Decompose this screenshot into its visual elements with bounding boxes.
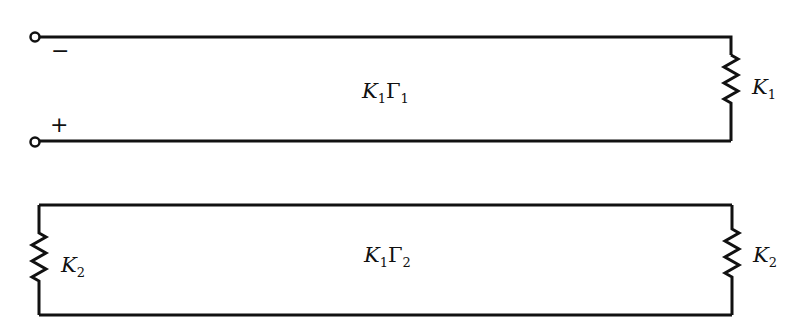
terminal-minus-icon	[31, 33, 40, 42]
minus-sign: −	[51, 40, 69, 62]
plus-sign: +	[50, 114, 68, 136]
circuit-drawing	[0, 0, 807, 331]
line2-right-resistor-k2	[725, 205, 739, 315]
line1-resistor-k1	[724, 55, 738, 141]
line2-left-resistor-label: K2	[61, 255, 85, 279]
transmission-line-diagram: − + K1Γ1 K1 K1Γ2 K2 K2	[0, 0, 807, 331]
line2-left-resistor-k2	[32, 205, 46, 315]
line2-right-resistor-label: K2	[753, 245, 777, 269]
line1-load-label: K1	[752, 77, 776, 101]
terminal-plus-icon	[31, 138, 40, 147]
line1-top-conductor	[40, 37, 731, 55]
line1-parameter-label: K1Γ1	[362, 81, 409, 105]
line2-parameter-label: K1Γ2	[364, 245, 411, 269]
